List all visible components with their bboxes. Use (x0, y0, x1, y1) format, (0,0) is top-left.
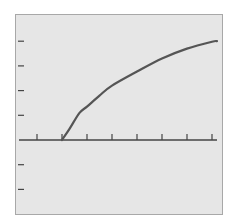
chart-container (0, 0, 233, 224)
line-chart (0, 0, 233, 224)
plot-area (16, 15, 223, 215)
